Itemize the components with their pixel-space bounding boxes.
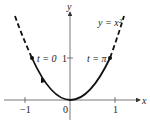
point-t0 [30,56,34,60]
curve-label: y = x² [98,18,122,28]
tick-x-zero: 0 [63,105,68,115]
curve-solid [32,58,110,100]
tick-x-pos1: 1 [113,105,118,115]
curve-dashed-left [15,16,32,58]
x-axis-label: x [142,96,146,106]
point-right-label: t = π [87,54,107,64]
point-tpi [108,56,112,60]
parametric-parabola-diagram: y = x² t = 0 t = π x y −1 0 1 1 [0,0,150,125]
y-axis-label: y [67,2,71,12]
point-left-label: t = 0 [37,54,57,64]
tick-x-neg1: −1 [20,105,31,115]
tick-y-one: 1 [62,54,67,64]
